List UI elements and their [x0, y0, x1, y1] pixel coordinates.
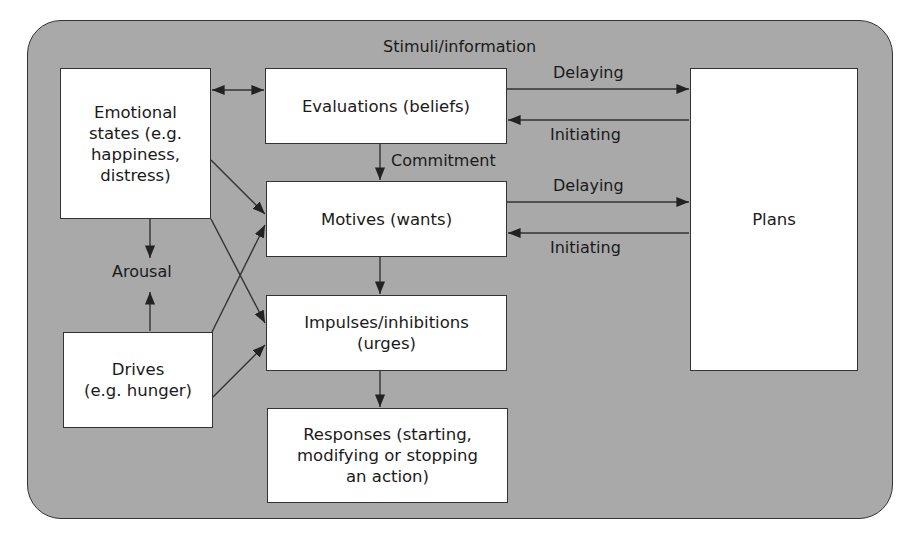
drives-impulses-arrow — [213, 345, 265, 397]
emotional-impulses-arrow — [211, 219, 265, 323]
edges-layer — [0, 0, 914, 538]
diagram: Stimuli/information Emotional states (e.… — [0, 0, 914, 538]
emotional-motives-arrow — [211, 160, 265, 214]
drives-motives-arrow — [212, 225, 265, 332]
